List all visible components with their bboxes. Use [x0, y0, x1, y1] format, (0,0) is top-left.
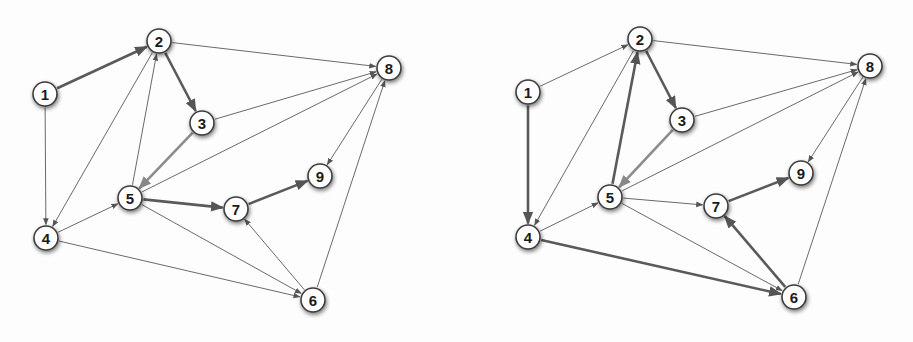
node-label: 8 [866, 58, 874, 75]
edge-6-to-7 [245, 219, 305, 289]
node-label: 2 [636, 31, 644, 48]
node-7: 7 [704, 194, 728, 218]
node-6: 6 [782, 285, 806, 309]
edge-3-to-8 [215, 72, 376, 119]
edge-8-to-9 [808, 77, 862, 161]
edge-1-to-4 [45, 108, 46, 225]
edge-7-to-9 [249, 181, 308, 204]
node-label: 1 [41, 86, 49, 103]
node-2: 2 [147, 29, 171, 53]
edge-4-to-6 [541, 240, 781, 294]
node-5: 5 [118, 186, 142, 210]
graph-figure: 123456789 123456789 [0, 0, 913, 342]
left-graph-nodes: 123456789 [33, 29, 401, 312]
node-6: 6 [301, 288, 325, 312]
edge-5-to-6 [142, 205, 301, 294]
node-label: 9 [316, 168, 324, 185]
edge-1-to-2 [57, 47, 147, 89]
node-9: 9 [308, 164, 332, 188]
node-5: 5 [598, 185, 622, 209]
right-graph-edges [528, 41, 866, 294]
edge-2-to-8 [172, 43, 375, 67]
node-label: 9 [797, 165, 805, 182]
node-1: 1 [516, 80, 540, 104]
edge-2-to-3 [165, 53, 195, 111]
node-label: 5 [126, 190, 134, 207]
node-label: 3 [198, 115, 206, 132]
edge-5-to-2 [613, 52, 638, 183]
left-graph-edges [45, 43, 385, 297]
node-label: 8 [385, 60, 393, 77]
edge-7-to-9 [729, 178, 789, 201]
edge-8-to-9 [327, 79, 381, 164]
right-graph: 123456789 [516, 27, 882, 309]
edge-4-to-6 [59, 241, 300, 297]
node-8: 8 [858, 54, 882, 78]
node-7: 7 [224, 197, 248, 221]
edge-5-to-2 [133, 54, 157, 184]
node-1: 1 [33, 82, 57, 106]
edge-4-to-5 [540, 203, 598, 231]
node-label: 5 [606, 189, 614, 206]
edge-4-to-5 [58, 204, 118, 232]
node-label: 7 [712, 198, 720, 215]
node-label: 1 [524, 84, 532, 101]
edge-3-to-8 [695, 70, 857, 117]
node-8: 8 [377, 56, 401, 80]
node-9: 9 [789, 161, 813, 185]
left-graph: 123456789 [33, 29, 401, 312]
edge-2-to-3 [646, 51, 676, 108]
node-label: 6 [309, 292, 317, 309]
node-3: 3 [190, 111, 214, 135]
node-label: 4 [524, 229, 533, 246]
node-2: 2 [628, 27, 652, 51]
edge-5-to-8 [622, 72, 858, 191]
node-4: 4 [34, 226, 58, 250]
right-graph-nodes: 123456789 [516, 27, 882, 309]
edge-5-to-7 [143, 199, 222, 207]
node-label: 4 [42, 230, 51, 247]
node-label: 7 [232, 201, 240, 218]
node-label: 2 [155, 33, 163, 50]
node-label: 6 [790, 289, 798, 306]
node-3: 3 [670, 108, 694, 132]
edge-2-to-8 [653, 41, 856, 65]
edge-5-to-7 [624, 198, 703, 205]
edge-1-to-2 [540, 45, 628, 86]
edge-5-to-8 [142, 74, 377, 192]
node-label: 3 [678, 112, 686, 129]
node-4: 4 [516, 225, 540, 249]
